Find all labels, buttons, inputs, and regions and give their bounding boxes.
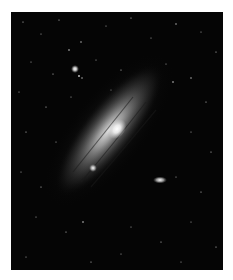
image-frame [0,0,233,280]
companion-galaxy-small [89,164,97,172]
bright-foreground-star [71,65,79,73]
galaxy-illustration [11,12,223,270]
galaxy-photo [11,12,223,270]
companion-galaxy-elliptical [153,177,167,184]
